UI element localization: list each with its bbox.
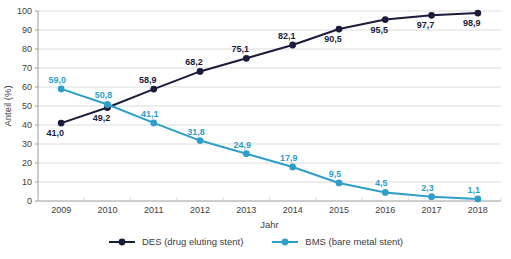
x-tick-label: 2009 (51, 205, 71, 215)
x-tick-label: 2012 (190, 205, 210, 215)
y-tick-label: 30 (22, 139, 32, 149)
des-data-label: 90,5 (324, 34, 342, 44)
legend-item-des: DES (drug eluting stent) (108, 236, 243, 247)
bms-data-label: 17,9 (280, 153, 298, 163)
x-tick-label: 2018 (468, 205, 488, 215)
bms-point (58, 86, 65, 93)
bms-data-label: 31,8 (187, 127, 205, 137)
y-tick-label: 0 (27, 196, 32, 206)
bms-data-label: 9,5 (329, 169, 342, 179)
stent-usage-chart: 0102030405060708090100200920102011201220… (0, 0, 511, 259)
x-tick-label: 2014 (283, 205, 303, 215)
y-tick-label: 70 (22, 63, 32, 73)
bms-point (428, 193, 435, 200)
des-point (336, 26, 343, 33)
bms-point (243, 150, 250, 157)
des-data-label: 95,5 (370, 25, 388, 35)
y-tick-label: 80 (22, 44, 32, 54)
des-point (197, 68, 204, 75)
bms-point (382, 189, 389, 196)
legend-item-bms: BMS (bare metal stent) (271, 236, 403, 247)
bms-point (197, 137, 204, 144)
des-data-label: 75,1 (232, 44, 250, 54)
des-point (289, 42, 296, 49)
des-point (150, 86, 157, 93)
chart-plot-area: 0102030405060708090100200920102011201220… (0, 0, 511, 259)
y-tick-label: 90 (22, 25, 32, 35)
bms-point (336, 180, 343, 187)
des-point (382, 16, 389, 23)
des-point (474, 10, 481, 17)
y-tick-label: 50 (22, 101, 32, 111)
des-point (428, 12, 435, 19)
bms-data-label: 50,8 (95, 90, 113, 100)
x-tick-label: 2015 (329, 205, 349, 215)
des-data-label: 97,7 (417, 20, 435, 30)
y-tick-label: 40 (22, 120, 32, 130)
legend-label-des: DES (drug eluting stent) (142, 236, 243, 247)
x-tick-label: 2011 (144, 205, 163, 215)
des-data-label: 68,2 (185, 57, 203, 67)
bms-data-label: 59,0 (48, 75, 66, 85)
bms-point (104, 101, 111, 108)
des-data-label: 41,0 (46, 128, 64, 138)
bms-point (474, 196, 481, 203)
des-point (58, 120, 65, 127)
legend-swatch-bms-icon (271, 237, 299, 247)
des-point (243, 55, 250, 62)
x-tick-label: 2017 (422, 205, 442, 215)
des-data-label: 82,1 (278, 31, 296, 41)
y-tick-label: 10 (22, 177, 32, 187)
des-data-label: 58,9 (139, 75, 157, 85)
legend-swatch-des-icon (108, 237, 136, 247)
bms-data-label: 2,3 (421, 183, 434, 193)
y-tick-label: 100 (17, 6, 32, 16)
x-tick-label: 2016 (375, 205, 395, 215)
des-data-label: 49,2 (93, 113, 111, 123)
y-tick-label: 60 (22, 82, 32, 92)
y-tick-label: 20 (22, 158, 32, 168)
chart-legend: DES (drug eluting stent) BMS (bare metal… (0, 236, 511, 247)
x-tick-label: 2013 (236, 205, 256, 215)
y-axis-title: Anteil (%) (2, 85, 13, 126)
des-data-label: 98,9 (463, 18, 481, 28)
bms-data-label: 1,1 (468, 185, 481, 195)
legend-label-bms: BMS (bare metal stent) (305, 236, 403, 247)
x-axis-title: Jahr (260, 219, 278, 230)
bms-data-label: 41,1 (141, 109, 159, 119)
bms-data-label: 4,5 (375, 178, 388, 188)
bms-data-label: 24,9 (234, 140, 252, 150)
bms-point (289, 164, 296, 171)
bms-point (150, 120, 157, 127)
x-tick-label: 2010 (97, 205, 117, 215)
